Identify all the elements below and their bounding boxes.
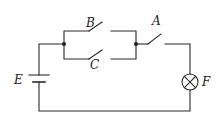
switch-a-blade (148, 34, 161, 44)
battery-e (29, 75, 49, 82)
label-b: B (85, 16, 95, 30)
lamp-f (182, 74, 198, 90)
label-e: E (13, 73, 23, 87)
circuit-diagram: B C A E F (0, 0, 223, 127)
wire-branch-c-left (64, 44, 89, 59)
label-a: A (151, 14, 161, 28)
wire-left-top (39, 44, 64, 75)
label-f: F (201, 75, 211, 89)
label-c: C (90, 58, 99, 72)
wire-left-bottom (39, 82, 190, 111)
wire-branch-c-right (111, 44, 136, 59)
wire-right (165, 44, 190, 74)
wire-branch-b-right (111, 31, 136, 44)
wire-branch-b-left (64, 31, 89, 44)
